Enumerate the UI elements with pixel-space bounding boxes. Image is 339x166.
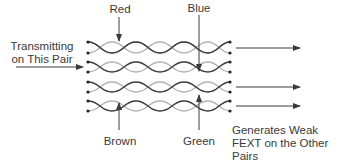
twisted-pair-fext-diagram: Red Blue Brown Green Transmitting on Thi…	[0, 0, 339, 166]
wire-pair-red	[86, 40, 231, 54]
label-brown: Brown	[104, 135, 137, 147]
label-transmitting-line2: on This Pair	[11, 53, 72, 65]
label-red: Red	[109, 3, 130, 15]
label-transmitting-line1: Transmitting	[11, 40, 74, 52]
wire-pair-blue	[86, 60, 231, 73]
label-blue: Blue	[187, 2, 210, 14]
label-fext-line1: Generates Weak	[232, 124, 318, 136]
wire-pair-brown	[86, 99, 231, 112]
label-green: Green	[183, 135, 215, 147]
wire-pair-green	[86, 80, 231, 93]
label-fext-line2: FEXT on the Other	[232, 137, 328, 149]
label-fext-line3: Pairs	[232, 150, 258, 162]
